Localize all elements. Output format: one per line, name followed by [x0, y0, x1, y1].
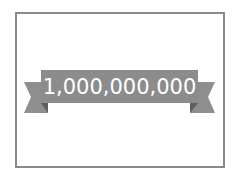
banner-number: 1,000,000,000 [41, 70, 198, 103]
